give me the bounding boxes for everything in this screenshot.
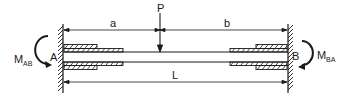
dimension-a-b [64,28,287,31]
moment-arrow-right [298,41,313,70]
beam-diagram: P a b L A B M AB M BA [0,0,352,100]
dimension-a-label: a [110,17,117,29]
load-label: P [157,2,164,14]
moment-right-subscript: BA [326,56,336,63]
point-load-arrow [158,13,163,52]
right-sleeve [230,45,287,70]
left-fixed-support [58,24,63,93]
support-A-label: A [50,51,58,63]
dimension-b-label: b [224,17,230,29]
support-B-label: B [292,50,299,62]
left-sleeve [64,45,123,70]
beam [63,52,288,62]
moment-right-label: M [317,49,326,61]
moment-left-label: M [14,53,23,65]
dimension-L-label: L [172,69,178,81]
moment-left-subscript: AB [23,60,33,67]
